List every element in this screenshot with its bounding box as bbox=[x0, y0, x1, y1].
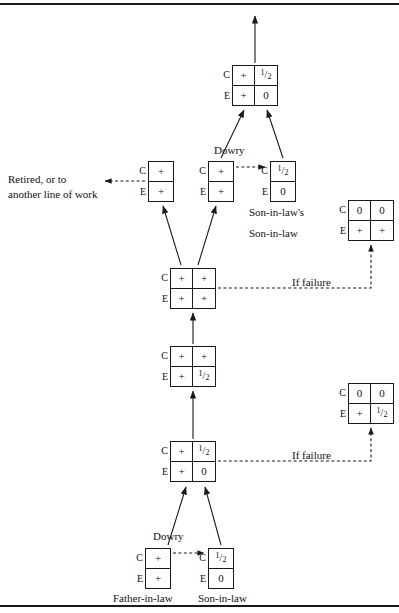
cell-c1: 1/2 bbox=[255, 66, 277, 86]
label-sons-son-line2: Son-in-law bbox=[249, 226, 304, 241]
cell-c1: + bbox=[193, 269, 215, 289]
row-label-c: C bbox=[332, 200, 346, 221]
rowlabels-father-in-law: C E bbox=[129, 548, 143, 589]
cell-c1: + bbox=[193, 347, 215, 367]
cell-e0: + bbox=[209, 182, 233, 202]
rowlabels-mature-household: C E bbox=[154, 268, 168, 309]
row-label-e: E bbox=[132, 182, 146, 203]
rowlabels-dowry-giver-mid: C E bbox=[192, 161, 206, 202]
row-label-e: E bbox=[332, 404, 346, 425]
cell-e1: 1/2 bbox=[193, 367, 215, 387]
fraction-one-half: 1/2 bbox=[216, 552, 227, 564]
matrix-growing-household: + + + 1/2 bbox=[170, 346, 216, 387]
matrix-dowry-giver-mid: + + bbox=[208, 161, 234, 202]
row-label-e: E bbox=[216, 86, 230, 107]
matrix-top-outcome: + 1/2 + 0 bbox=[232, 65, 278, 106]
rowlabels-early-household: C E bbox=[154, 441, 168, 482]
row-label-c: C bbox=[129, 548, 143, 569]
matrix-son-in-law: 1/2 0 bbox=[208, 548, 234, 589]
row-label-c: C bbox=[154, 346, 168, 367]
cell-e1: 0 bbox=[193, 462, 215, 482]
rowlabels-sons-son-in-law: C E bbox=[254, 161, 268, 202]
arrow-soninlaw-to-early bbox=[205, 487, 221, 545]
rowlabels-son-in-law: C E bbox=[192, 548, 206, 589]
cell-e1: + bbox=[193, 289, 215, 309]
cell-e1: 1/2 bbox=[371, 404, 393, 424]
fraction-one-half: 1/2 bbox=[199, 445, 210, 457]
cell-c1: 1/2 bbox=[193, 442, 215, 462]
cell-e0: + bbox=[171, 289, 193, 309]
label-dowry-bottom: Dowry bbox=[153, 529, 184, 544]
arrow-sonsson-to-top bbox=[267, 110, 283, 158]
row-label-e: E bbox=[154, 367, 168, 388]
cell-c0: 0 bbox=[349, 384, 371, 404]
cell-c0: + bbox=[171, 269, 193, 289]
matrix-father-in-law: + + bbox=[145, 548, 171, 589]
label-retired-line1: Retired, or to bbox=[8, 172, 98, 187]
cell-e0: + bbox=[149, 182, 173, 202]
cell-c0: + bbox=[149, 162, 173, 182]
rowlabels-growing-household: C E bbox=[154, 346, 168, 387]
cell-c0: + bbox=[209, 162, 233, 182]
cell-e0: + bbox=[233, 86, 255, 106]
cell-c0: + bbox=[171, 442, 193, 462]
row-label-c: C bbox=[132, 161, 146, 182]
cell-c0: + bbox=[146, 549, 170, 569]
row-label-c: C bbox=[254, 161, 268, 182]
cell-c1: 0 bbox=[371, 384, 393, 404]
row-label-e: E bbox=[192, 182, 206, 203]
fraction-one-half: 1/2 bbox=[377, 407, 388, 419]
row-label-c: C bbox=[216, 65, 230, 86]
label-sons-son-in-law: Son-in-law's Son-in-law bbox=[249, 205, 304, 240]
rowlabels-failure-upper: C E bbox=[332, 200, 346, 241]
matrix-mature-household: + + + + bbox=[170, 268, 216, 309]
cell-c0: 1/2 bbox=[209, 549, 233, 569]
row-label-e: E bbox=[154, 289, 168, 310]
label-sons-son-line1: Son-in-law's bbox=[249, 205, 304, 220]
cell-e0: + bbox=[349, 404, 371, 424]
cell-e0: + bbox=[349, 221, 371, 241]
arrow-mature-to-dowrygiver bbox=[198, 206, 216, 265]
cell-e1: 0 bbox=[255, 86, 277, 106]
label-son-in-law: Son-in-law bbox=[198, 591, 247, 606]
cell-c1: 0 bbox=[371, 201, 393, 221]
label-retired: Retired, or to another line of work bbox=[8, 172, 98, 201]
rowlabels-retired-state: C E bbox=[132, 161, 146, 202]
figure-canvas: C E + 1/2 + 0 C E + + C E + + C E 1/2 0 bbox=[0, 0, 399, 613]
cell-c0: 0 bbox=[349, 201, 371, 221]
top-rule bbox=[0, 3, 399, 5]
cell-e1: + bbox=[371, 221, 393, 241]
row-label-e: E bbox=[254, 182, 268, 203]
row-label-c: C bbox=[332, 383, 346, 404]
matrix-failure-upper: 0 0 + + bbox=[348, 200, 394, 241]
rowlabels-failure-lower: C E bbox=[332, 383, 346, 424]
cell-e0: + bbox=[146, 569, 170, 589]
label-father-in-law: Father-in-law bbox=[113, 591, 173, 606]
row-label-e: E bbox=[154, 462, 168, 483]
label-if-failure-upper: If failure bbox=[292, 275, 331, 290]
label-if-failure-lower: If failure bbox=[292, 448, 331, 463]
row-label-c: C bbox=[192, 548, 206, 569]
label-dowry-middle: Dowry bbox=[214, 143, 245, 158]
cell-e0: + bbox=[171, 462, 193, 482]
row-label-c: C bbox=[154, 268, 168, 289]
matrix-failure-lower: 0 0 + 1/2 bbox=[348, 383, 394, 424]
row-label-e: E bbox=[129, 569, 143, 590]
cell-e0: 0 bbox=[271, 182, 295, 202]
arrow-mature-to-retired bbox=[163, 206, 181, 265]
cell-e0: 0 bbox=[209, 569, 233, 589]
cell-c0: 1/2 bbox=[271, 162, 295, 182]
row-label-c: C bbox=[154, 441, 168, 462]
row-label-c: C bbox=[192, 161, 206, 182]
cell-c0: + bbox=[233, 66, 255, 86]
row-label-e: E bbox=[192, 569, 206, 590]
cell-c0: + bbox=[171, 347, 193, 367]
cell-e0: + bbox=[171, 367, 193, 387]
fraction-one-half: 1/2 bbox=[199, 370, 210, 382]
fraction-one-half: 1/2 bbox=[261, 69, 272, 81]
rowlabels-top-outcome: C E bbox=[216, 65, 230, 106]
fraction-one-half: 1/2 bbox=[278, 165, 289, 177]
matrix-early-household: + 1/2 + 0 bbox=[170, 441, 216, 482]
label-retired-line2: another line of work bbox=[8, 187, 98, 202]
matrix-sons-son-in-law: 1/2 0 bbox=[270, 161, 296, 202]
